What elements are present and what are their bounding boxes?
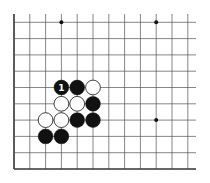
star-point-icon [59,20,63,24]
white-stone-icon [54,96,69,111]
white-stone [54,113,69,128]
board-grid [14,14,196,169]
black-stone [70,113,85,128]
black-stone [70,80,85,95]
white-stone [86,80,101,95]
white-stone-icon [38,113,53,128]
white-stone-icon [70,96,85,111]
black-stone-icon [86,96,101,111]
black-stone [86,113,101,128]
white-stone-icon [86,80,101,95]
star-point-icon [154,20,158,24]
move-number-label: 1 [58,83,64,93]
white-stone [70,96,85,111]
black-stone-icon [86,113,101,128]
black-stone: 1 [54,80,69,95]
go-board: 1 [0,0,210,183]
black-stone [38,129,53,144]
black-stone-icon [54,129,69,144]
black-stone [54,129,69,144]
white-stone-icon [54,113,69,128]
black-stone [86,96,101,111]
stones-layer: 1 [38,80,100,144]
black-stone-icon [38,129,53,144]
white-stone [38,113,53,128]
black-stone-icon [70,80,85,95]
white-stone [54,96,69,111]
star-point-icon [154,118,158,122]
black-stone-icon [70,113,85,128]
